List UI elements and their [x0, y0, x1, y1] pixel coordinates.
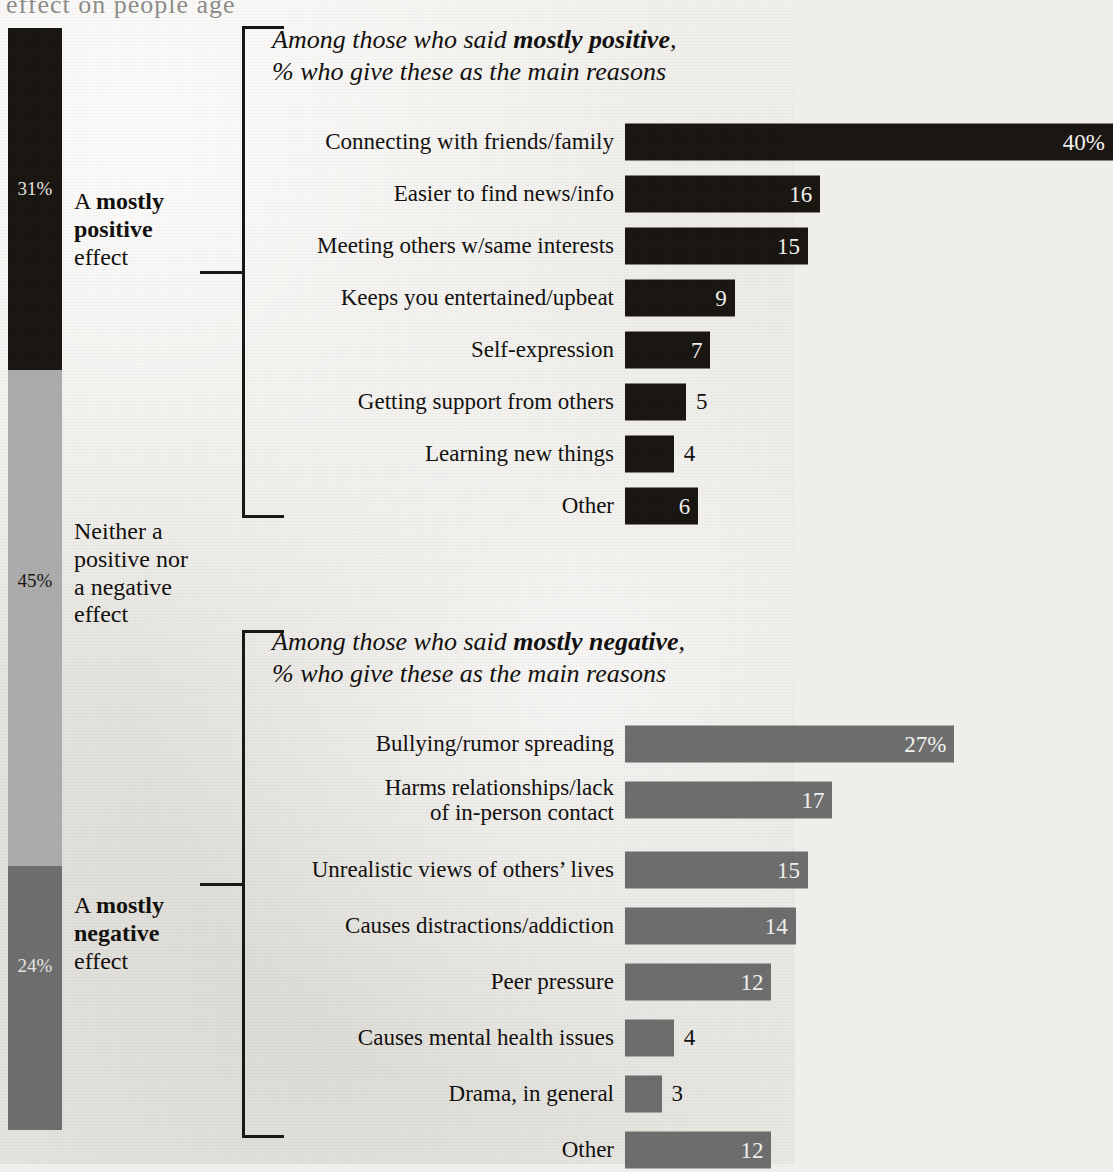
reason-label: Easier to find news/info — [194, 181, 625, 206]
reason-row: Unrealistic views of others’ lives15 — [625, 848, 1067, 892]
reason-label: Other — [194, 493, 625, 518]
reason-bar — [625, 1020, 674, 1057]
panel-positive-reasons: Among those who said mostly positive, % … — [272, 24, 795, 87]
reason-row: Bullying/rumor spreading27% — [625, 722, 1067, 766]
reason-value: 40% — [1063, 129, 1105, 155]
reason-label: Bullying/rumor spreading — [194, 731, 625, 756]
reason-row: Other12 — [625, 1128, 1067, 1172]
reason-bar — [625, 436, 674, 473]
stack-label-positive-strong: mostlypositive — [74, 188, 164, 242]
panel-positive-title-tail: , — [670, 25, 677, 54]
reason-value: 4 — [684, 441, 696, 467]
panel-positive-title: Among those who said mostly positive, % … — [272, 24, 792, 87]
reason-value: 17 — [801, 787, 824, 813]
bracket-negative — [228, 630, 288, 1138]
reason-label: Getting support from others — [194, 389, 625, 414]
reason-value: 7 — [691, 337, 703, 363]
reason-row: Drama, in general3 — [625, 1072, 1067, 1116]
reason-bar: 15 — [625, 852, 808, 889]
reason-row: Other6 — [625, 484, 1067, 528]
panel-positive-title-line2: % who give these as the main reasons — [272, 57, 666, 86]
panel-positive-title-bold: mostly positive — [513, 25, 670, 54]
reason-label: Drama, in general — [194, 1081, 625, 1106]
stack-label-negative-strong: mostlynegative — [74, 892, 164, 946]
reason-row: Causes distractions/addiction14 — [625, 904, 1067, 948]
stack-percent-negative: 24% — [8, 955, 62, 977]
panel-negative-title-bold: mostly negative — [513, 627, 678, 656]
reason-bar: 40% — [625, 124, 1113, 161]
reason-value: 5 — [696, 389, 708, 415]
reason-value: 3 — [672, 1081, 684, 1107]
reason-label: Other — [194, 1137, 625, 1162]
panel-positive-title-lead: Among those who said — [272, 25, 513, 54]
reason-bar: 12 — [625, 964, 771, 1001]
reason-value: 15 — [777, 857, 800, 883]
reason-row: Harms relationships/lack of in-person co… — [625, 778, 1067, 822]
reason-label: Self-expression — [194, 337, 625, 362]
reason-bar: 17 — [625, 782, 832, 819]
reason-value: 15 — [777, 233, 800, 259]
page-bleed-text-top: effect on people age — [6, 0, 236, 20]
reason-bar — [625, 1076, 662, 1113]
reason-bar: 15 — [625, 228, 808, 265]
reason-row: Learning new things4 — [625, 432, 1067, 476]
reason-value: 4 — [684, 1025, 696, 1051]
reason-row: Getting support from others5 — [625, 380, 1067, 424]
reason-bar: 12 — [625, 1132, 771, 1169]
reason-label: Causes distractions/addiction — [194, 913, 625, 938]
reason-row: Causes mental health issues4 — [625, 1016, 1067, 1060]
reason-bar: 7 — [625, 332, 710, 369]
reason-value: 6 — [679, 493, 691, 519]
stack-segment-neither — [8, 370, 62, 866]
reason-value: 9 — [715, 285, 727, 311]
reason-row: Keeps you entertained/upbeat9 — [625, 276, 1067, 320]
reason-value: 14 — [765, 913, 788, 939]
reason-label: Causes mental health issues — [194, 1025, 625, 1050]
reason-label: Connecting with friends/family — [194, 129, 625, 154]
reason-row: Meeting others w/same interests15 — [625, 224, 1067, 268]
panel-negative-title-line2: % who give these as the main reasons — [272, 659, 666, 688]
reason-bar: 6 — [625, 488, 698, 525]
reason-bar: 16 — [625, 176, 820, 213]
reason-bar — [625, 384, 686, 421]
reason-bar: 14 — [625, 908, 796, 945]
reason-label: Unrealistic views of others’ lives — [194, 857, 625, 882]
reason-label: Learning new things — [194, 441, 625, 466]
reason-value: 27% — [904, 731, 946, 757]
reason-row: Easier to find news/info16 — [625, 172, 1067, 216]
reason-label: Harms relationships/lack of in-person co… — [194, 775, 625, 826]
reason-label: Peer pressure — [194, 969, 625, 994]
reason-bar: 9 — [625, 280, 735, 317]
reason-row: Peer pressure12 — [625, 960, 1067, 1004]
stack-segment-negative — [8, 866, 62, 1130]
stack-label-neither: Neither apositive nora negativeeffect — [74, 518, 234, 629]
bracket-positive-stub — [200, 271, 245, 274]
reason-bar: 27% — [625, 726, 954, 763]
bracket-negative-stub — [200, 883, 245, 886]
reason-label: Meeting others w/same interests — [194, 233, 625, 258]
reason-value: 12 — [740, 969, 763, 995]
panel-negative-title-lead: Among those who said — [272, 627, 513, 656]
reason-row: Connecting with friends/family40% — [625, 120, 1067, 164]
stack-percent-neither: 45% — [8, 570, 62, 592]
panel-negative-title: Among those who said mostly negative, % … — [272, 626, 792, 689]
reason-value: 12 — [740, 1137, 763, 1163]
stack-percent-positive: 31% — [8, 178, 62, 200]
reason-label: Keeps you entertained/upbeat — [194, 285, 625, 310]
panel-negative-title-tail: , — [679, 627, 686, 656]
panel-negative-reasons: Among those who said mostly negative, % … — [272, 626, 795, 689]
reason-value: 16 — [789, 181, 812, 207]
reason-row: Self-expression7 — [625, 328, 1067, 372]
